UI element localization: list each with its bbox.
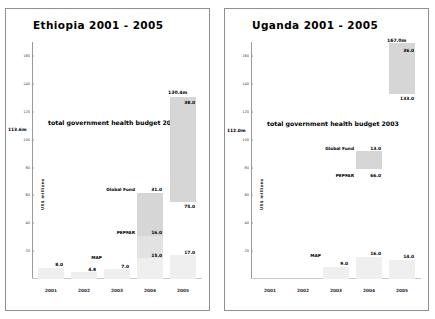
y-tick-label-60: 60 (10, 193, 30, 197)
x-tick-2002: 2002 (69, 288, 99, 293)
y-tick-mark-60 (32, 195, 34, 196)
y-tick-mark-100 (251, 139, 253, 140)
x-tick-2002: 2002 (288, 288, 318, 293)
series-label-map: MAP (91, 255, 102, 260)
bar-value-map: 9.0 (340, 261, 348, 266)
bar-value-map: 16.0 (370, 251, 381, 256)
y-tick-label-120: 120 (229, 110, 249, 114)
x-tick-2003: 2003 (321, 288, 351, 293)
x-tick-2001: 2001 (255, 288, 285, 293)
chart-page: Ethiopia 2001 - 2005 US$ millions 160 14… (0, 0, 435, 319)
y-tick-mark-160 (32, 56, 34, 57)
panel-ethiopia: Ethiopia 2001 - 2005 US$ millions 160 14… (5, 8, 210, 311)
y-tick-label-160: 160 (10, 54, 30, 58)
bar-segment-map (38, 268, 64, 279)
y-tick-mark-20 (32, 251, 34, 252)
y-tick-label-60: 60 (229, 193, 249, 197)
y-tick-label-40: 40 (10, 221, 30, 225)
y-axis-label-ethiopia: US$ millions (40, 178, 45, 210)
series-label-pepfar: PEPFAR (117, 230, 135, 235)
bar-value-map: 8.0 (55, 262, 63, 267)
bar-value-pepfar: 75.0 (184, 204, 195, 209)
y-axis-line (251, 42, 252, 279)
series-label-global-fund: Global Fund (106, 187, 135, 192)
bar-segment-map (170, 255, 196, 279)
bar-value-global-fund: 31.0 (151, 187, 162, 192)
y-tick-mark-80 (32, 167, 34, 168)
y-axis-line (32, 42, 33, 279)
y-tick-label-140: 140 (229, 82, 249, 86)
y-tick-label-20: 20 (10, 249, 30, 253)
bar-segment-map (71, 272, 97, 279)
bar-segment-pepfar-globalfund (170, 97, 196, 202)
y-tick-mark-100 (32, 139, 34, 140)
y-tick-mark-80 (251, 167, 253, 168)
bar-value-map: 7.0 (121, 264, 129, 269)
y-tick-label-160: 160 (229, 54, 249, 58)
x-tick-2005: 2005 (387, 288, 417, 293)
series-label-global-fund: Global Fund (325, 146, 354, 151)
bar-value-map: 17.0 (184, 250, 195, 255)
y-tick-label-20: 20 (229, 249, 249, 253)
bar-value-map: 14.0 (403, 254, 414, 259)
y-tick-label-80: 80 (10, 166, 30, 170)
y-tick-mark-60 (251, 195, 253, 196)
series-label-map: MAP (310, 253, 321, 258)
x-tick-2003: 2003 (102, 288, 132, 293)
y-tick-label-100: 100 (10, 138, 30, 142)
panel-title-ethiopia: Ethiopia 2001 - 2005 (33, 19, 163, 31)
x-tick-2004: 2004 (135, 288, 165, 293)
bar-segment-map (137, 258, 163, 279)
bar-segment-global-fund (356, 151, 382, 169)
bar-value-pepfar: 133.0 (400, 96, 414, 101)
bar-segment-map (356, 257, 382, 279)
y-tick-mark-120 (251, 111, 253, 112)
y-tick-mark-160 (251, 56, 253, 57)
y-tick-mark-40 (32, 223, 34, 224)
budget-note-ethiopia: total government health budget 2003 (48, 119, 180, 126)
plot-area-ethiopia: US$ millions 160 140 120 100 80 60 40 20… (32, 42, 202, 279)
bar-total-label: 130.4m (168, 90, 187, 95)
bar-segment-map (323, 267, 349, 280)
plot-area-uganda: US$ millions 160 140 120 100 80 60 40 20… (251, 42, 421, 279)
bar-segment-map (104, 269, 130, 279)
y-tick-label-120: 120 (10, 110, 30, 114)
bar-value-global-fund: 38.0 (184, 100, 195, 105)
y-tick-label-140: 140 (10, 82, 30, 86)
y-tick-mark-120 (32, 111, 34, 112)
series-label-pepfar: PEPFAR (336, 173, 354, 178)
bar-segment-map (389, 260, 415, 280)
budget-value-ethiopia: 113.6m (8, 127, 26, 132)
bar-value-global-fund: 13.0 (370, 146, 381, 151)
x-tick-2001: 2001 (36, 288, 66, 293)
bar-value-pepfar: 66.0 (370, 173, 381, 178)
panel-uganda: Uganda 2001 - 2005 US$ millions 160 140 … (224, 8, 429, 311)
y-tick-mark-20 (251, 251, 253, 252)
bar-value-map: 15.0 (151, 253, 162, 258)
y-tick-label-40: 40 (229, 221, 249, 225)
panel-title-uganda: Uganda 2001 - 2005 (252, 19, 378, 31)
budget-note-uganda: total government health budget 2003 (267, 120, 399, 127)
y-tick-mark-140 (32, 83, 34, 84)
bar-value-map: 4.8 (88, 267, 96, 272)
y-tick-mark-140 (251, 83, 253, 84)
bar-total-label: 167.0m (387, 38, 406, 43)
y-tick-label-100: 100 (229, 138, 249, 142)
y-tick-mark-40 (251, 223, 253, 224)
bar-value-pepfar: 16.0 (151, 230, 162, 235)
bar-value-global-fund: 36.0 (403, 48, 414, 53)
x-tick-2004: 2004 (354, 288, 384, 293)
y-axis-label-uganda: US$ millions (259, 178, 264, 210)
budget-value-uganda: 112.0m (227, 128, 245, 133)
y-tick-label-80: 80 (229, 166, 249, 170)
x-tick-2005: 2005 (168, 288, 198, 293)
